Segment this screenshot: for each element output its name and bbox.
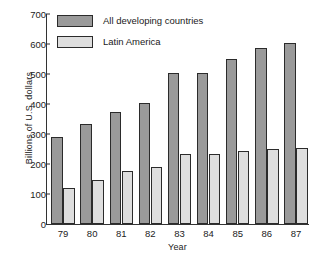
x-axis-line — [46, 224, 309, 225]
bar — [197, 73, 209, 225]
y-tick-label: 500 — [0, 69, 46, 80]
y-tick-label: 600 — [0, 39, 46, 50]
x-tick-label: 87 — [291, 228, 302, 239]
bar — [296, 148, 308, 224]
bar — [139, 103, 151, 224]
bar — [168, 73, 180, 225]
x-tick-label: 85 — [232, 228, 243, 239]
bar — [226, 59, 238, 224]
bar — [63, 188, 75, 224]
bar — [110, 112, 122, 225]
x-tick-label: 79 — [58, 228, 69, 239]
y-tick-label: 200 — [0, 159, 46, 170]
legend-swatch-icon — [57, 15, 93, 27]
bar — [209, 154, 221, 225]
bar — [180, 154, 192, 225]
legend-label: All developing countries — [103, 15, 203, 26]
x-tick-label: 86 — [262, 228, 273, 239]
bar-chart: Billions of U.S. dollars 010020030040050… — [0, 0, 315, 257]
y-tick-label: 300 — [0, 129, 46, 140]
bar-group — [284, 14, 308, 224]
y-tick-label: 0 — [0, 219, 46, 230]
y-tick-label: 100 — [0, 189, 46, 200]
bar — [151, 167, 163, 224]
x-axis-label: Year — [46, 242, 309, 252]
x-tick-label: 83 — [174, 228, 185, 239]
x-tick-label: 84 — [203, 228, 214, 239]
bar — [284, 43, 296, 225]
chart-legend: All developing countries Latin America — [57, 12, 203, 54]
bar — [122, 171, 134, 224]
bar — [51, 137, 63, 224]
y-axis-ticks: 0100200300400500600700 — [0, 0, 46, 257]
x-tick-label: 80 — [87, 228, 98, 239]
legend-item-all-developing-countries: All developing countries — [57, 12, 203, 29]
bar — [92, 180, 104, 224]
legend-item-latin-america: Latin America — [57, 33, 203, 50]
bar-group — [255, 14, 279, 224]
y-tick-label: 700 — [0, 9, 46, 20]
x-tick-label: 82 — [145, 228, 156, 239]
legend-swatch-icon — [57, 36, 93, 48]
bar — [238, 151, 250, 224]
y-tick-label: 400 — [0, 99, 46, 110]
bar-group — [226, 14, 250, 224]
bar — [255, 48, 267, 224]
x-tick-label: 81 — [116, 228, 127, 239]
bar — [80, 124, 92, 224]
bar — [267, 149, 279, 224]
legend-label: Latin America — [103, 36, 161, 47]
